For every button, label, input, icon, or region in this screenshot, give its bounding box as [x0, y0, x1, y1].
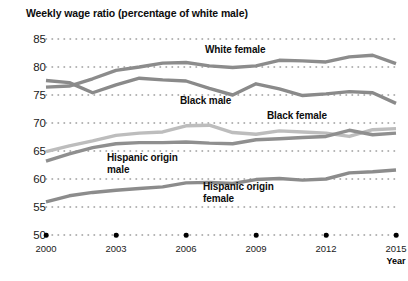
y-axis-tick-80: 80 [24, 61, 46, 73]
series-label-hispanic-origin-male: Hispanic origin male [107, 152, 178, 175]
x-axis-tick-2009: 2009 [233, 243, 279, 254]
series-label-black-female: Black female [267, 110, 327, 122]
wage-ratio-line-chart: Weekly wage ratio (percentage of white m… [0, 0, 408, 281]
x-axis-tick-2015: 2015 [373, 243, 408, 254]
x-axis-tick-2003: 2003 [93, 243, 139, 254]
x-axis-tick-2000: 2000 [23, 243, 69, 254]
series-label-hispanic-origin-female: Hispanic origin female [203, 181, 274, 204]
series-label-white-female: White female [205, 44, 265, 56]
y-axis-tick-75: 75 [24, 89, 46, 101]
y-axis-tick-70: 70 [24, 117, 46, 129]
x-axis-tick-2012: 2012 [303, 243, 349, 254]
y-axis-tick-50: 50 [24, 229, 46, 241]
series-line-white-female [46, 55, 396, 87]
y-axis-tick-60: 60 [24, 173, 46, 185]
y-axis-tick-85: 85 [24, 33, 46, 45]
x-axis-marker-2009 [254, 233, 259, 238]
x-axis-marker-2000 [44, 233, 49, 238]
x-axis-marker-2003 [114, 233, 119, 238]
x-axis-marker-2015 [394, 233, 399, 238]
x-axis-tick-2006: 2006 [163, 243, 209, 254]
y-axis-tick-55: 55 [24, 201, 46, 213]
x-axis-label: Year [386, 256, 405, 266]
y-axis-tick-65: 65 [24, 145, 46, 157]
x-axis-marker-2006 [184, 233, 189, 238]
plot-area [0, 0, 408, 281]
series-label-black-male: Black male [180, 95, 231, 107]
x-axis-marker-2012 [324, 233, 329, 238]
